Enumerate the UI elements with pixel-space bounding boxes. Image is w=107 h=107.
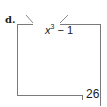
input-funnel-right bbox=[60, 15, 68, 23]
input-funnel-left bbox=[26, 15, 33, 23]
output-value: 26 bbox=[86, 87, 99, 101]
rule-rest: − 1 bbox=[54, 24, 73, 36]
function-rule: x3 − 1 bbox=[45, 23, 73, 36]
